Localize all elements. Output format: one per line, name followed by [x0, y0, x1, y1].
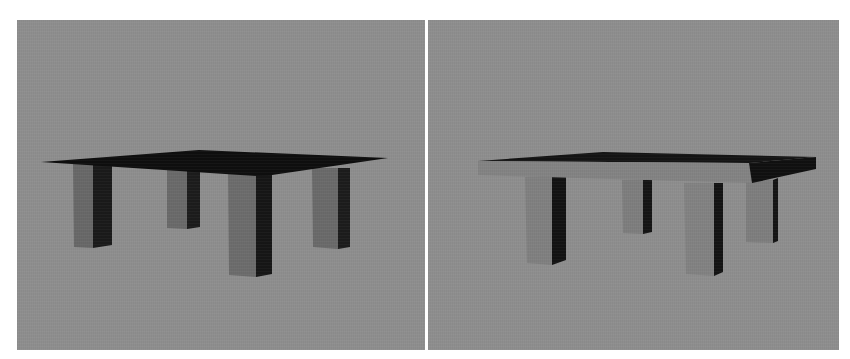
leg-back-middle [167, 170, 200, 229]
leg-front-left [525, 177, 566, 265]
right-render-panel [428, 20, 839, 350]
tabletop-surface [478, 152, 816, 163]
table-thick-top-render [428, 20, 839, 350]
tabletop-front-edge [478, 161, 752, 183]
left-render-panel [17, 20, 425, 350]
table-thin-top-render [17, 20, 425, 350]
leg-back-right [746, 178, 778, 243]
leg-front-left [73, 160, 112, 248]
leg-front-center [228, 170, 272, 277]
leg-back-middle [622, 180, 652, 234]
leg-front-right [312, 168, 350, 249]
leg-front-center [684, 183, 723, 276]
